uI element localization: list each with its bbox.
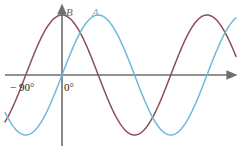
curve-label-b: B bbox=[66, 7, 73, 18]
x-tick-label-zero: 0° bbox=[64, 82, 74, 93]
sinusoid-figure: − 90° 0° B A bbox=[0, 0, 241, 151]
curve-label-a: A bbox=[92, 7, 99, 18]
x-tick-label-neg90: − 90° bbox=[10, 82, 34, 93]
figure-canvas bbox=[0, 0, 241, 151]
